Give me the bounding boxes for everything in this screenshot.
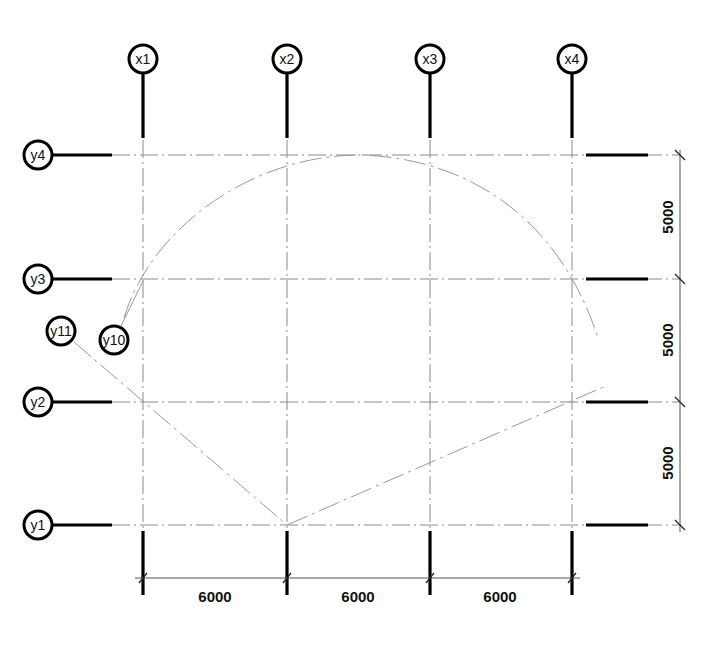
bubble-label: y10 (103, 332, 126, 348)
bubble-label: y11 (50, 323, 72, 339)
axis-bubble-x2: x2 (273, 45, 301, 73)
bubble-label: y4 (31, 147, 46, 163)
axis-bubble-y4: y4 (24, 141, 52, 169)
dimension-value: 6000 (483, 588, 516, 605)
axis-bubble-y10: y10 (100, 326, 128, 354)
arc-axis-y10 (124, 155, 598, 338)
bubble-label: x2 (280, 51, 295, 67)
auxiliary-axes (74, 155, 608, 525)
bubble-label: x1 (136, 51, 151, 67)
axis-bubble-y2: y2 (24, 388, 52, 416)
dimension-value: 5000 (659, 323, 676, 356)
leader-y10 (121, 281, 143, 326)
grid-stubs (52, 73, 648, 595)
vertical-grid-lines (143, 140, 572, 595)
bubble-label: x4 (565, 51, 580, 67)
bubble-label: x3 (423, 51, 438, 67)
axis-bubble-x3: x3 (416, 45, 444, 73)
grid-plan-drawing: x1 x2 x3 x4 y4 y3 y2 y1 y11 y10 (0, 0, 726, 658)
dimension-value: 5000 (659, 200, 676, 233)
inclined-axis-y11 (74, 342, 287, 525)
dimension-value: 5000 (659, 446, 676, 479)
axis-bubble-y3: y3 (24, 265, 52, 293)
dimension-value: 6000 (198, 588, 231, 605)
inclined-line-right (287, 385, 608, 525)
dimension-chain-horizontal: 6000 6000 6000 (135, 573, 580, 605)
axis-bubble-x4: x4 (558, 45, 586, 73)
axis-bubble-y1: y1 (24, 511, 52, 539)
bubble-label: y1 (31, 517, 46, 533)
axis-bubble-x1: x1 (129, 45, 157, 73)
axis-bubble-y11: y11 (47, 317, 75, 345)
dimension-value: 6000 (341, 588, 374, 605)
bubble-label: y2 (31, 394, 46, 410)
horizontal-grid-lines (112, 155, 680, 525)
bubble-label: y3 (31, 271, 46, 287)
dimension-chain-vertical: 5000 5000 5000 (659, 150, 686, 532)
